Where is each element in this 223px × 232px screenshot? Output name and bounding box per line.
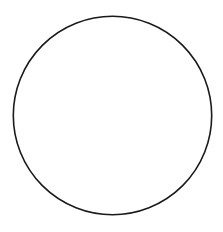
hatched-circle-figure <box>0 0 223 232</box>
outer-circle <box>13 16 211 214</box>
figure-container: Hatched vertical bands inside a circle <box>0 0 223 232</box>
